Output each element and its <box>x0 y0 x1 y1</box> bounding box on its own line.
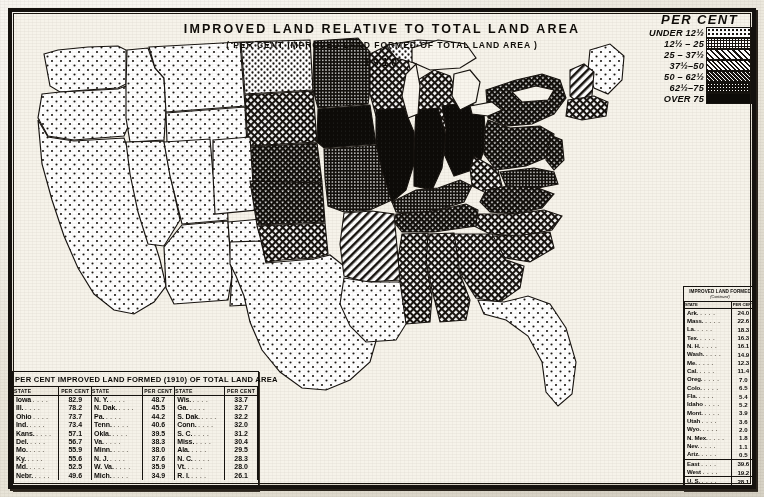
map-frame-inner <box>13 13 751 484</box>
map-page: IMPROVED LAND RELATIVE TO TOTAL LAND ARE… <box>0 0 764 497</box>
